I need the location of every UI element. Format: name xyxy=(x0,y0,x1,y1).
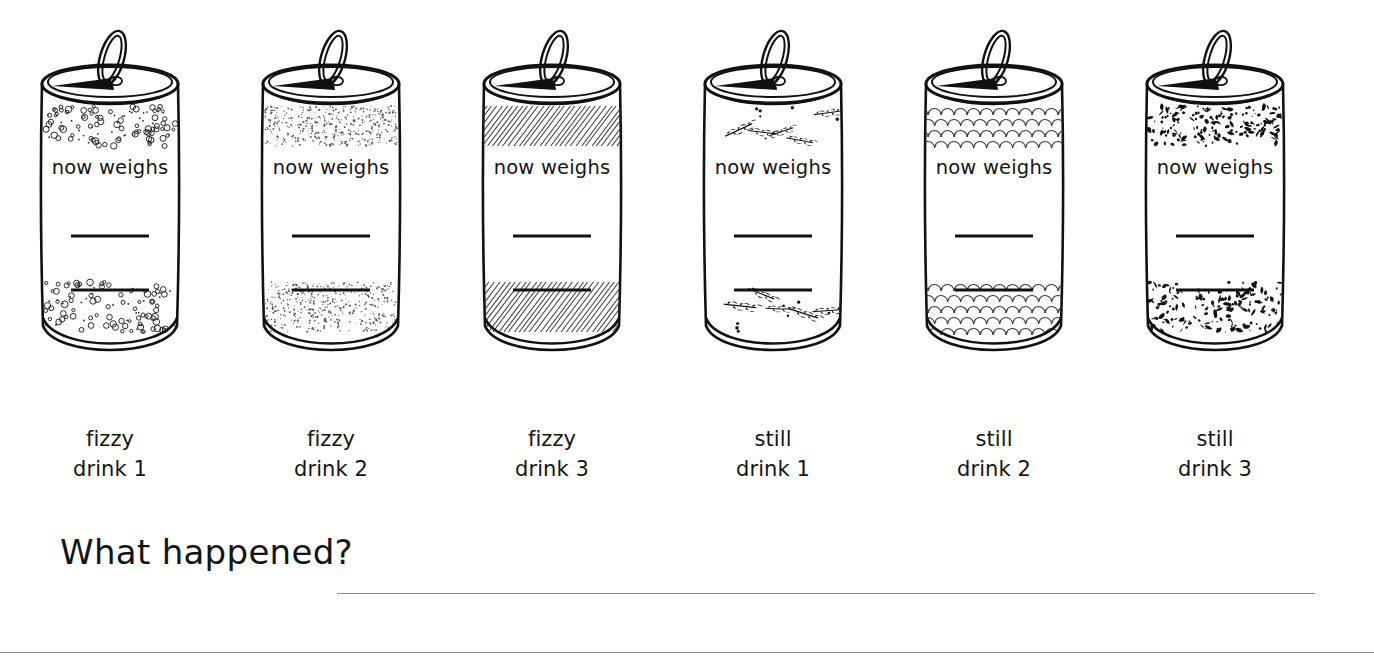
can-now-weighs-text: now weighs xyxy=(52,156,169,179)
caption-line-1: fizzy xyxy=(231,424,431,454)
drink-can-fizzy-drink-1: now weighs xyxy=(10,22,210,394)
question-section: What happened? xyxy=(0,524,1374,664)
caption-line-2: drink 1 xyxy=(673,454,873,484)
caption-line-2: drink 2 xyxy=(231,454,431,484)
can-now-weighs-text: now weighs xyxy=(1157,156,1274,179)
drink-can-still-drink-2: now weighs xyxy=(894,22,1094,394)
caption-line-2: drink 2 xyxy=(894,454,1094,484)
can-now-weighs-text: now weighs xyxy=(936,156,1053,179)
caption-line-2: drink 3 xyxy=(1115,454,1315,484)
caption-fizzy-drink-1: fizzydrink 1 xyxy=(10,424,210,484)
caption-still-drink-1: stilldrink 1 xyxy=(673,424,873,484)
caption-line-1: fizzy xyxy=(452,424,652,454)
can-now-weighs-text: now weighs xyxy=(494,156,611,179)
drink-can-fizzy-drink-2: now weighs xyxy=(231,22,431,394)
caption-still-drink-3: stilldrink 3 xyxy=(1115,424,1315,484)
caption-line-2: drink 3 xyxy=(452,454,652,484)
worksheet-page: now weighs fizzydrink 1 now weighs fizzy… xyxy=(0,0,1374,664)
drink-can-fizzy-drink-3: now weighs xyxy=(452,22,652,394)
answer-line-1[interactable] xyxy=(337,593,1315,594)
caption-line-1: still xyxy=(894,424,1094,454)
caption-line-1: still xyxy=(673,424,873,454)
caption-line-2: drink 1 xyxy=(10,454,210,484)
caption-still-drink-2: stilldrink 2 xyxy=(894,424,1094,484)
caption-line-1: fizzy xyxy=(10,424,210,454)
drink-can-still-drink-1: now weighs xyxy=(673,22,873,394)
caption-fizzy-drink-2: fizzydrink 2 xyxy=(231,424,431,484)
question-title: What happened? xyxy=(60,530,353,574)
drink-cans-row: now weighs fizzydrink 1 now weighs fizzy… xyxy=(0,0,1374,400)
can-now-weighs-text: now weighs xyxy=(715,156,832,179)
can-now-weighs-text: now weighs xyxy=(273,156,390,179)
drink-can-still-drink-3: now weighs xyxy=(1115,22,1315,394)
caption-line-1: still xyxy=(1115,424,1315,454)
caption-fizzy-drink-3: fizzydrink 3 xyxy=(452,424,652,484)
answer-line-2[interactable] xyxy=(0,652,1374,653)
